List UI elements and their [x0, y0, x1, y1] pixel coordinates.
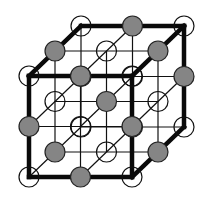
filled-ion-icon [71, 66, 91, 86]
filled-ion-icon [97, 92, 117, 112]
lattice-svg [0, 0, 207, 202]
lattice-diagram [0, 0, 207, 202]
filled-ion-icon [45, 41, 65, 61]
filled-ion-icon [122, 117, 142, 137]
filled-ion-icon [45, 142, 65, 162]
filled-ion-icon [71, 167, 91, 187]
filled-ion-icon [148, 142, 168, 162]
filled-ion-icon [123, 16, 143, 36]
filled-ion-icon [19, 117, 39, 137]
filled-ion-icon [148, 41, 168, 61]
filled-ion-icon [174, 67, 194, 87]
